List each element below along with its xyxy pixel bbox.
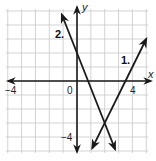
tick-label-origin: 0 [67,85,73,96]
tick-label-x-neg4: −4 [5,85,17,96]
tick-label-y-neg4: −4 [61,132,73,143]
x-axis-label: x [147,68,154,80]
line-1 [92,39,146,148]
coordinate-graph: x y −4 0 4 −4 1. 2. [0,0,156,161]
line-1-label: 1. [121,54,130,66]
line-2 [62,15,115,150]
tick-label-x-4: 4 [130,85,136,96]
line-2-label: 2. [55,28,64,40]
series-group [62,15,146,150]
